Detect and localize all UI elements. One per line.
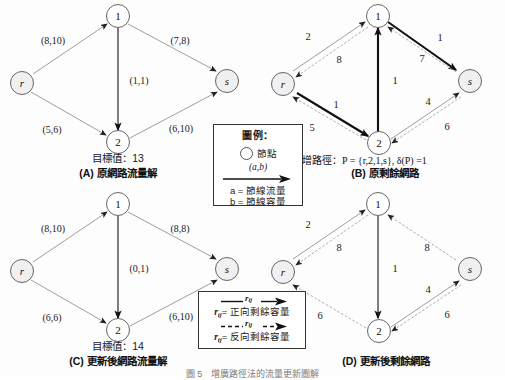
edge-label-d-r-1: 2	[305, 219, 310, 230]
legend-flow-node-row: 節點	[214, 146, 302, 160]
edge-label-b-1-r: 8	[336, 54, 341, 65]
edge-label-r-1: (8,10)	[41, 35, 65, 47]
node-b-2-label: 2	[376, 137, 382, 149]
panel-a-graph: r 1 2 s (8,10) (7,8) (1,1) (5,6) (6,10)	[11, 5, 239, 154]
edge-b-r-1	[293, 22, 365, 71]
edge-1-s	[128, 24, 216, 71]
edge-label-c-2-s: (6,10)	[169, 311, 193, 323]
legend-residual-box: rij rij= 正向剩餘容量 rij rij= 反向剩餘容量	[198, 291, 306, 349]
edge-d-s-1	[388, 215, 456, 260]
node-c-r-label: r	[20, 265, 25, 277]
edge-c-r-1	[33, 212, 107, 262]
panel-c-caption: (C) 更新後網路流量解	[44, 353, 192, 368]
edge-d-r-1	[293, 210, 365, 259]
edge-label-b-2-s: 4	[425, 96, 431, 107]
node-circle-icon	[240, 147, 253, 160]
edge-label-b-r-2: 5	[309, 122, 314, 133]
figure-bottom-caption: 圖 5 增廣路徑法的流量更新圖解	[0, 367, 505, 380]
node-d-s-label: s	[468, 263, 472, 275]
legend-residual-forward-row: rij= 正向剩餘容量	[199, 307, 305, 318]
edge-label-b-1-s: 1	[437, 32, 442, 43]
legend-arrow-icon	[223, 175, 293, 184]
edge-label-b-r-1: 2	[305, 31, 310, 42]
edge-label-c-1-2: (0,1)	[129, 263, 148, 275]
legend-residual-forward-sample: rij	[199, 294, 305, 307]
legend-flow-box: 圖例： 節點 (a,b) a = 節線流量 b = 節線容量	[213, 124, 303, 206]
node-2-label: 2	[115, 136, 121, 148]
panel-a-objective: 目標值：13	[68, 150, 168, 165]
edge-label-d-1-s: 8	[424, 242, 429, 253]
edge-label-1-2: (1,1)	[129, 75, 148, 87]
edge-label-b-2-1: 1	[392, 75, 397, 86]
edge-label-d-2-r: 6	[317, 310, 322, 321]
edge-label-c-1-s: (8,8)	[170, 223, 189, 235]
legend-backward-text: = 反向剩餘容量	[222, 331, 290, 342]
edge-b-2-r	[293, 97, 366, 140]
edge-label-d-1-2: 1	[392, 263, 397, 274]
node-d-2-label: 2	[376, 325, 382, 337]
edge-label-b-s-1: 7	[419, 53, 424, 64]
edge-label-r-2: (5,6)	[42, 124, 61, 136]
edge-label-2-s: (6,10)	[169, 123, 193, 135]
node-b-s-label: s	[468, 75, 472, 87]
node-d-1-label: 1	[375, 198, 381, 210]
edge-label-b-2-r: 1	[333, 99, 338, 110]
legend-flow-edge-label: (a,b)	[249, 162, 267, 172]
edge-label-c-r-1: (8,10)	[41, 223, 65, 235]
panel-b-caption: (B) 原剩餘網路	[330, 165, 440, 180]
edge-c-1-s	[128, 212, 216, 259]
node-c-1-label: 1	[115, 198, 121, 210]
forward-arrow-icon	[221, 297, 287, 306]
legend-flow-edge-sample: (a,b)	[214, 164, 302, 184]
node-s-label: s	[225, 75, 229, 87]
edge-r-1	[33, 24, 107, 74]
edge-b-s-1	[388, 27, 456, 72]
panel-d-caption: (D) 更新後剩餘網路	[316, 353, 456, 368]
legend-flow-line-b: b = 節線容量	[214, 197, 302, 208]
edge-label-b-s-2: 6	[444, 121, 449, 132]
node-b-r-label: r	[281, 78, 286, 90]
panel-a-caption: (A) 原網路流量解	[58, 165, 178, 180]
backward-arrow-icon	[221, 322, 287, 331]
node-c-s-label: s	[225, 263, 229, 275]
legend-backward-symbol: rij	[245, 318, 252, 328]
legend-backward-symbol-2: rij	[214, 332, 222, 342]
edge-label-d-1-r: 8	[336, 242, 341, 253]
legend-forward-symbol-2: rij	[214, 307, 222, 317]
legend-forward-text: = 正向剩餘容量	[222, 306, 290, 317]
node-c-2-label: 2	[115, 324, 121, 336]
edge-label-d-s-2: 6	[444, 309, 449, 320]
node-d-r-label: r	[281, 266, 286, 278]
legend-flow-title: 圖例：	[214, 127, 302, 142]
panel-c-objective: 目標值：14	[68, 338, 168, 353]
edge-label-1-s: (7,8)	[170, 35, 189, 47]
legend-residual-backward-row: rij= 反向剩餘容量	[199, 332, 305, 343]
edge-label-c-r-2: (6,6)	[42, 312, 61, 324]
edge-label-d-2-s: 4	[425, 284, 431, 295]
node-r-label: r	[20, 77, 25, 89]
node-1-label: 1	[115, 10, 121, 22]
legend-flow-node-label: 節點	[257, 146, 277, 160]
legend-forward-symbol: rij	[245, 293, 252, 303]
node-b-1-label: 1	[375, 10, 381, 22]
legend-residual-backward-sample: rij	[199, 319, 305, 332]
panel-b-graph: r 1 2 s 2 8 1 7 1 1 5 4 6	[272, 5, 482, 155]
